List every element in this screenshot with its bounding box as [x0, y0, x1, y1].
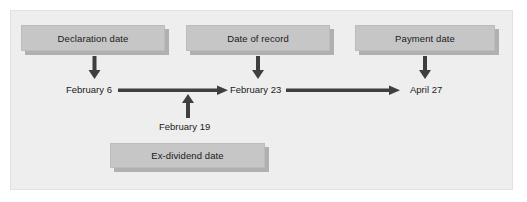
timeline-label-february-23: February 23 — [230, 84, 281, 95]
box-payment-date-label: Payment date — [395, 33, 455, 44]
box-ex-dividend-date[interactable]: Ex-dividend date — [110, 143, 265, 168]
timeline-label-april-27: April 27 — [410, 84, 442, 95]
box-declaration-date-label: Declaration date — [58, 33, 129, 44]
box-declaration-date[interactable]: Declaration date — [21, 25, 165, 51]
diagram-canvas: Declaration date Date of record Payment … — [0, 0, 527, 202]
box-date-of-record[interactable]: Date of record — [186, 25, 330, 51]
box-payment-date[interactable]: Payment date — [355, 25, 495, 51]
box-ex-dividend-date-label: Ex-dividend date — [151, 150, 223, 161]
timeline-label-february-19: February 19 — [159, 121, 210, 132]
box-date-of-record-label: Date of record — [227, 33, 289, 44]
timeline-label-february-6: February 6 — [66, 84, 112, 95]
